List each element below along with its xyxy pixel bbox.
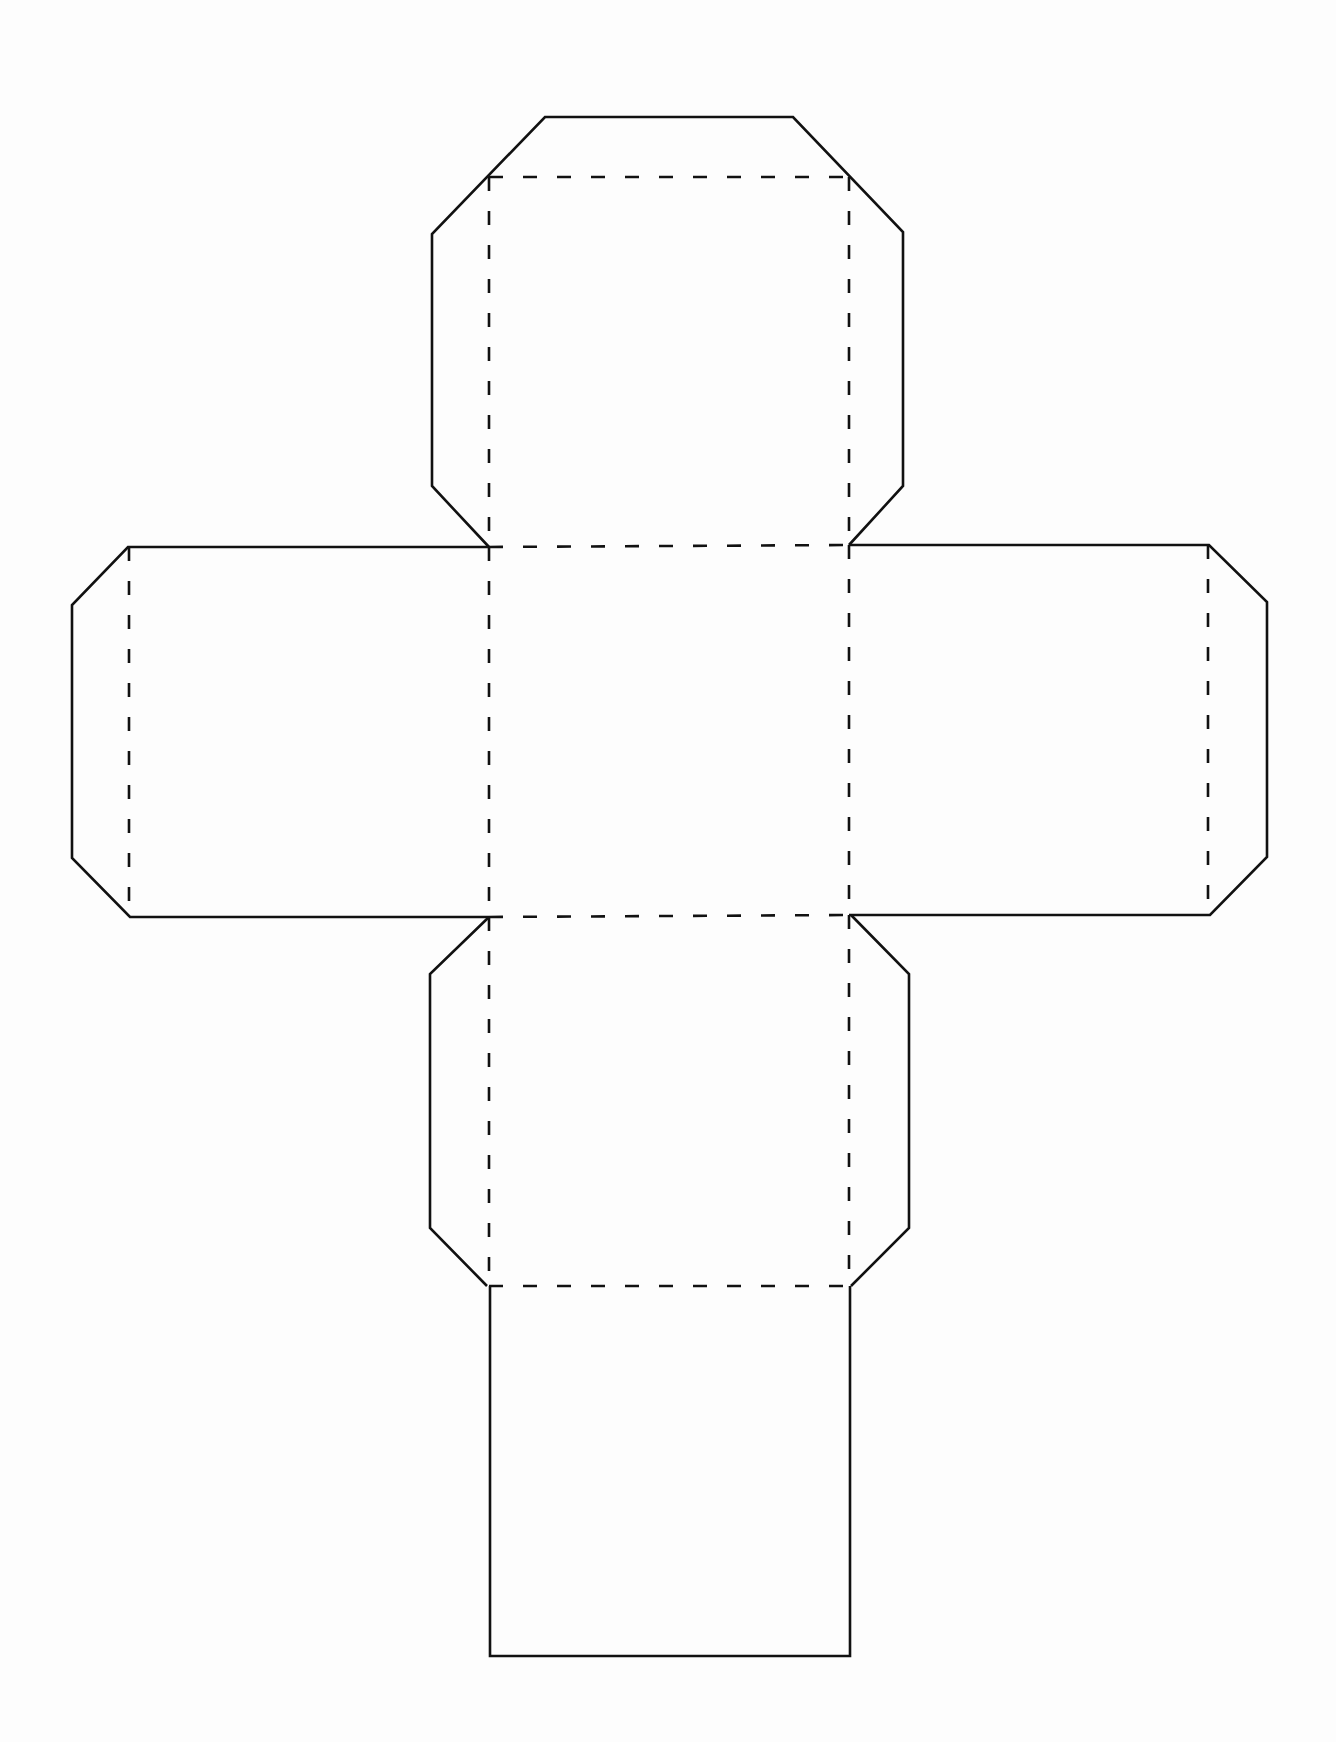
cube-net-diagram bbox=[0, 0, 1336, 1742]
back-face-cut-outline bbox=[490, 1286, 850, 1656]
center-face-group bbox=[489, 545, 849, 917]
bottom-face-cut-right bbox=[851, 915, 909, 1286]
bottom-face-cut-left bbox=[430, 917, 489, 1286]
right-face-cut-outline bbox=[849, 545, 1267, 915]
back-face-group bbox=[490, 1286, 850, 1656]
left-face-cut-outline bbox=[72, 547, 489, 917]
left-face-group bbox=[72, 547, 489, 917]
center-face-fold-bottom bbox=[489, 915, 849, 917]
bottom-face-group bbox=[430, 915, 909, 1286]
top-face-group bbox=[432, 117, 903, 547]
top-tab-cut-outline bbox=[432, 117, 903, 547]
right-face-group bbox=[849, 545, 1267, 915]
center-face-fold-top bbox=[489, 545, 849, 547]
